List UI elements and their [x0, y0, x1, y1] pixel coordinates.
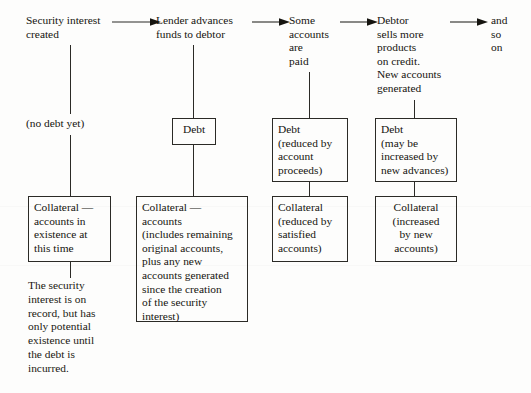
box-col4-collateral: Collateral (increased by new accounts) [375, 196, 457, 262]
connector-col1-mid [70, 135, 71, 196]
box-col1-collateral: Collateral — accounts in existence at th… [28, 196, 111, 262]
arrow-col3-to-col4-icon [340, 17, 378, 27]
connector-col4-top [414, 100, 415, 118]
box-col3-collateral-text: Collateral (reduced by satisfied account… [273, 197, 347, 255]
connector-col1-bottom [70, 262, 71, 278]
connector-col3-top [309, 72, 310, 118]
box-col3-collateral: Collateral (reduced by satisfied account… [272, 196, 348, 262]
box-col2-collateral-text: Collateral — accounts (includes remainin… [137, 197, 247, 323]
flowchart-diagram: Security interest created (no debt yet) … [0, 0, 531, 393]
connector-col4-mid [414, 182, 415, 196]
box-col3-debt-text: Debt (reduced by account proceeds) [273, 119, 347, 177]
box-col4-debt: Debt (may be increased by new advances) [375, 118, 457, 182]
column-header-and-so-on: and so on [491, 14, 531, 55]
box-col4-collateral-text: Collateral (increased by new accounts) [376, 197, 456, 255]
arrow-col1-to-col2-icon [112, 17, 161, 27]
scan-artifact-line [0, 265, 531, 266]
box-col2-debt: Debt [172, 118, 216, 145]
box-col2-collateral: Collateral — accounts (includes remainin… [136, 196, 248, 322]
box-col2-debt-text: Debt [173, 119, 215, 137]
note-no-debt-yet: (no debt yet) [26, 117, 136, 131]
connector-col2-mid [193, 145, 194, 196]
connector-col3-mid [309, 182, 310, 196]
box-col4-debt-text: Debt (may be increased by new advances) [376, 119, 456, 177]
connector-col1-top [70, 45, 71, 114]
box-col1-collateral-text: Collateral — accounts in existence at th… [29, 197, 110, 255]
paragraph-security-interest-note: The security interest is on record, but … [28, 279, 138, 376]
arrow-col2-to-col3-icon [252, 17, 290, 27]
box-col3-debt: Debt (reduced by account proceeds) [272, 118, 348, 182]
connector-col2-top [193, 45, 194, 118]
arrow-col4-to-col5-icon [450, 17, 488, 27]
